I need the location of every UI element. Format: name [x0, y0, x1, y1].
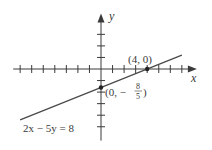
y-intercept-label-suffix: ): [143, 86, 147, 99]
y-axis-label: y: [108, 9, 115, 23]
y-intercept-fraction-numerator: 8: [136, 82, 140, 91]
x-axis-label: x: [190, 71, 197, 85]
intercept-point: [99, 85, 103, 89]
y-intercept-label: (0, − 8 5 ): [105, 82, 147, 101]
coordinate-plane: x y (4, 0) (0, − 8 5 ) 2x − 5y = 8: [0, 0, 212, 150]
y-axis-arrow-icon: [98, 14, 105, 23]
x-intercept-label: (4, 0): [128, 53, 152, 66]
intercept-point: [145, 67, 149, 71]
y-intercept-fraction-denominator: 5: [136, 92, 140, 101]
equation-label: 2x − 5y = 8: [23, 122, 74, 134]
equation-text: 2x − 5y = 8: [23, 122, 74, 134]
y-intercept-label-prefix: (0, −: [105, 86, 126, 99]
